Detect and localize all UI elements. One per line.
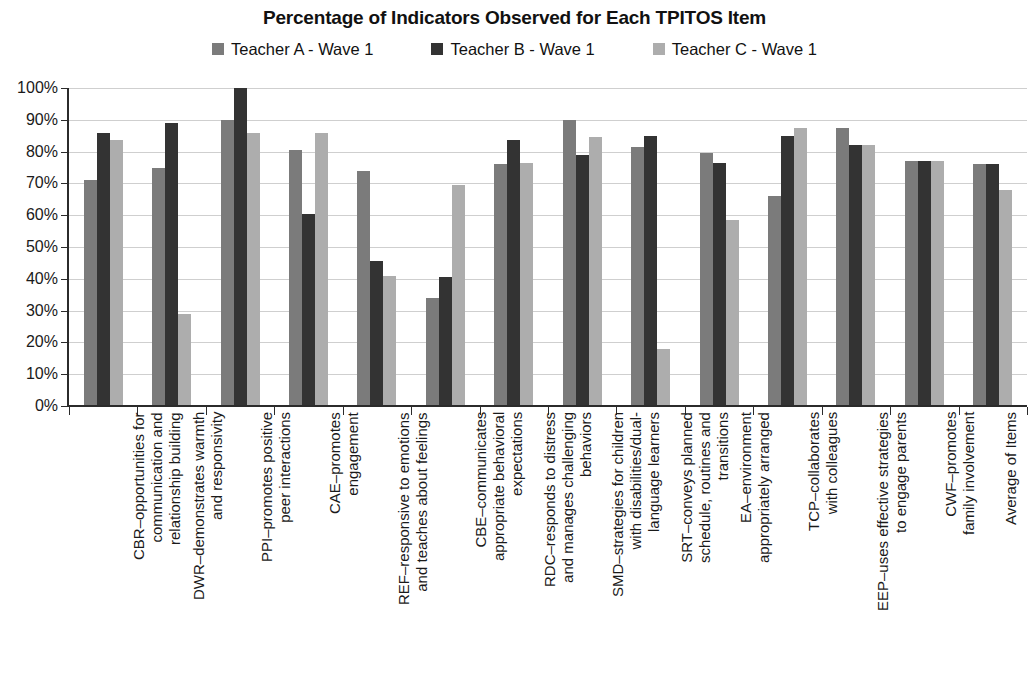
bar [357, 171, 370, 406]
bar-group [274, 88, 342, 406]
y-tick-mark [61, 152, 68, 153]
bar [713, 163, 726, 406]
bar [576, 155, 589, 406]
bar [452, 185, 465, 406]
bar-group [137, 88, 205, 406]
y-tick-label: 0% [35, 397, 58, 415]
bar [768, 196, 781, 406]
legend-label: Teacher B - Wave 1 [450, 40, 594, 59]
bar [781, 136, 794, 406]
bar [178, 314, 191, 406]
x-category-label: SRT–conveys plannedschedule, routines an… [616, 412, 684, 642]
bar [849, 145, 862, 406]
bar [439, 277, 452, 406]
x-axis-line [67, 405, 1027, 407]
bar [563, 120, 576, 406]
bar [315, 133, 328, 406]
y-tick-label: 80% [26, 143, 58, 161]
y-tick-label: 100% [17, 79, 58, 97]
bar [657, 349, 670, 406]
y-tick-label: 10% [26, 365, 58, 383]
x-category-label-line: Average of Items [1002, 412, 1020, 525]
bar [973, 164, 986, 406]
bar [165, 123, 178, 406]
bar [836, 128, 849, 406]
x-category-label: EEP–uses effective strategiesto engage p… [822, 412, 890, 642]
bar [152, 168, 165, 407]
bar-group [206, 88, 274, 406]
bar [905, 161, 918, 406]
bar [862, 145, 875, 406]
bar-group [343, 88, 411, 406]
x-category-label: Average of Items [958, 412, 1026, 642]
x-category-label: RDC–responds to distressand manages chal… [480, 412, 548, 642]
x-category-label: DWR–demonstrates warmthand responsivity [137, 412, 205, 642]
y-tick-mark [61, 311, 68, 312]
x-category-label: TCP–collaborateswith colleagues [753, 412, 821, 642]
bar [999, 190, 1012, 406]
x-category-label: CWF–promotesfamily involvement [890, 412, 958, 642]
y-tick-label: 40% [26, 270, 58, 288]
bar [426, 298, 439, 406]
bar [370, 261, 383, 406]
bars-layer [69, 88, 1027, 406]
bar-group [616, 88, 684, 406]
bar [247, 133, 260, 406]
bar [84, 180, 97, 406]
bar-group [480, 88, 548, 406]
bar-group [753, 88, 821, 406]
y-tick-mark [61, 279, 68, 280]
bar [383, 276, 396, 406]
y-tick-mark [61, 342, 68, 343]
x-category-label: EA–environmentappropriately arranged [685, 412, 753, 642]
bar-group [685, 88, 753, 406]
x-category-label: PPI–promotes positivepeer interactions [206, 412, 274, 642]
legend-item: Teacher C - Wave 1 [653, 40, 817, 59]
x-category-label: CBR–opportunities forcommunication andre… [69, 412, 137, 642]
bar [494, 164, 507, 406]
chart-legend: Teacher A - Wave 1Teacher B - Wave 1Teac… [0, 38, 1029, 60]
bar-group [890, 88, 958, 406]
bar [221, 120, 234, 406]
x-category-label: SMD–strategies for childrenwith disabili… [548, 412, 616, 642]
y-tick-mark [61, 88, 68, 89]
bar-group [69, 88, 137, 406]
bar-group [411, 88, 479, 406]
x-category-label: CAE–promotesengagement [274, 412, 342, 642]
legend-swatch-icon [212, 43, 224, 55]
y-tick-mark [61, 215, 68, 216]
y-tick-label: 20% [26, 333, 58, 351]
bar [507, 140, 520, 406]
bar [97, 133, 110, 406]
legend-item: Teacher A - Wave 1 [212, 40, 373, 59]
bar [631, 147, 644, 406]
x-tick-mark [1027, 407, 1028, 415]
y-tick-mark [61, 247, 68, 248]
bar [918, 161, 931, 406]
bar [110, 140, 123, 406]
x-axis-category-labels: CBR–opportunities forcommunication andre… [69, 412, 1027, 642]
plot-wrapper: 0%10%20%30%40%50%60%70%80%90%100% [0, 82, 1029, 412]
legend-swatch-icon [431, 43, 443, 55]
y-axis-labels: 0%10%20%30%40%50%60%70%80%90%100% [0, 82, 58, 400]
legend-label: Teacher A - Wave 1 [231, 40, 373, 59]
y-tick-mark [61, 374, 68, 375]
y-tick-mark [61, 183, 68, 184]
y-tick-label: 90% [26, 111, 58, 129]
bar [726, 220, 739, 406]
bar [289, 150, 302, 406]
bar-group [822, 88, 890, 406]
bar [931, 161, 944, 406]
bar-group [548, 88, 616, 406]
bar [644, 136, 657, 406]
legend-label: Teacher C - Wave 1 [672, 40, 817, 59]
bar [700, 153, 713, 406]
bar [589, 137, 602, 406]
chart-title: Percentage of Indicators Observed for Ea… [0, 0, 1029, 29]
legend-item: Teacher B - Wave 1 [431, 40, 594, 59]
y-tick-mark [61, 120, 68, 121]
bar [794, 128, 807, 406]
bar [302, 214, 315, 406]
legend-swatch-icon [653, 43, 665, 55]
bar [234, 88, 247, 406]
